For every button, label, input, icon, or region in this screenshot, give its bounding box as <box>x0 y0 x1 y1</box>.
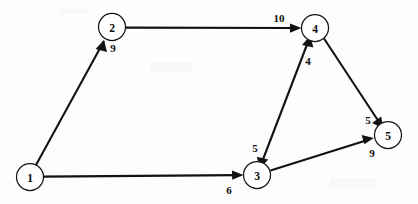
edge-weight-3-4: 4 <box>305 55 311 67</box>
arrow-head-1-2 <box>96 40 107 52</box>
edge-weight-4-3: 5 <box>252 142 258 154</box>
nodes-layer: 1 2 3 4 5 <box>17 14 402 191</box>
edge-labels-layer: 9 6 10 4 5 5 9 <box>110 12 375 196</box>
edge-weight-1-3: 6 <box>226 184 232 196</box>
node-label-5: 5 <box>385 130 391 142</box>
node-1[interactable]: 1 <box>17 164 44 191</box>
edge-2-to-4 <box>126 23 302 32</box>
graph-diagram: 9 6 10 4 5 5 9 1 2 3 4 <box>0 0 418 204</box>
edge-1-to-2 <box>36 40 107 165</box>
edge-weight-4-5: 5 <box>365 114 371 126</box>
graph-canvas: 9 6 10 4 5 5 9 1 2 3 4 <box>0 0 418 204</box>
node-3[interactable]: 3 <box>244 162 271 189</box>
edge-line-3-5 <box>271 141 367 171</box>
edge-weight-1-2: 9 <box>110 42 116 54</box>
edge-weight-2-4: 10 <box>274 12 286 24</box>
edge-3-to-5 <box>271 135 374 171</box>
edges-layer <box>36 23 383 179</box>
edge-weight-3-5: 9 <box>369 147 375 159</box>
node-label-1: 1 <box>27 172 33 184</box>
node-label-2: 2 <box>109 22 115 34</box>
node-label-3: 3 <box>254 170 260 182</box>
arrow-head-3-5 <box>362 135 374 144</box>
edge-1-to-3 <box>44 170 244 179</box>
edge-line-4-5 <box>324 39 379 123</box>
edge-line-1-3 <box>44 175 237 177</box>
node-label-4: 4 <box>312 23 318 35</box>
edge-4-to-5 <box>324 39 383 129</box>
node-4[interactable]: 4 <box>302 15 329 42</box>
node-2[interactable]: 2 <box>99 14 126 41</box>
node-5[interactable]: 5 <box>375 122 402 149</box>
edge-line-1-2 <box>36 41 104 165</box>
edge-line-3-4 <box>262 42 308 162</box>
arrow-head-1-3 <box>232 170 244 179</box>
arrow-head-2-4 <box>290 23 302 32</box>
